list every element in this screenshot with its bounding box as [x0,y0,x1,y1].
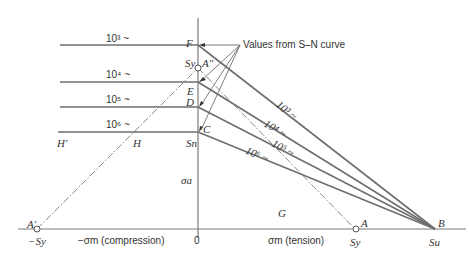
label-point-G: G [278,208,286,219]
label-Sn: Sn [186,138,197,149]
label-point-D: D [186,97,194,108]
label-neg-Sy: −Sy [28,236,46,247]
label-origin: 0 [194,236,200,246]
label-point-A: A [361,218,368,229]
label-sigma-m-tension: σm (tension) [268,236,324,246]
label-point-A-double-prime: A″ [202,58,213,69]
label-Su: Su [429,237,440,248]
goodman-diagram-canvas [0,0,469,259]
label-point-H-prime: H′ [57,138,67,149]
label-life-1e4-left: 10⁴ ~ [106,70,130,80]
point-A [353,226,359,232]
label-neg-sigma-m-compression: −σm (compression) [78,236,164,246]
label-point-B: B [438,218,445,229]
annotation-sn-curve: Values from S–N curve [243,40,345,50]
label-Sy-axis: Sy [350,237,360,248]
label-life-1e6-left: 10⁶ ~ [106,120,130,130]
point-A-double-prime [195,65,201,71]
label-point-C: C [203,124,210,135]
label-point-H: H [133,138,141,149]
life-line-1e3-diagonal [198,45,435,229]
label-life-1e3-left: 10³ ~ [106,34,129,44]
life-line-1e6-diagonal [198,132,435,229]
label-sigma-a: σa [181,175,192,186]
label-point-A-prime: A′ [27,219,36,230]
label-point-F: F [186,38,193,49]
label-life-1e5-left: 10⁵ ~ [106,95,130,105]
life-line-1e5-diagonal [198,107,435,229]
label-Sy-vertical: Sy [185,58,195,69]
